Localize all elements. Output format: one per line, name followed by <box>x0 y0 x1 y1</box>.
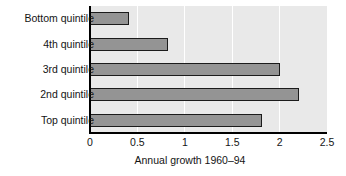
bar-row <box>90 38 327 51</box>
y-tick-label-top-quintile: Top quintile <box>41 114 94 127</box>
y-tick-label-bottom-quintile: Bottom quintile <box>25 12 94 25</box>
bar-row <box>90 63 327 76</box>
y-tick-label-4th-quintile: 4th quintile <box>43 38 94 51</box>
plot-area <box>90 6 327 133</box>
bar-row <box>90 88 327 101</box>
bars-group <box>90 6 327 133</box>
y-tick-label-3rd-quintile: 3rd quintile <box>43 63 94 76</box>
y-tick-label-2nd-quintile: 2nd quintile <box>40 88 94 101</box>
x-tick-label-3: 1.5 <box>225 136 240 149</box>
bar <box>90 38 168 51</box>
bar <box>90 114 262 127</box>
bar-chart: Bottom quintile 4th quintile 3rd quintil… <box>0 0 346 176</box>
x-tick-label-0: 0 <box>87 136 93 149</box>
x-axis-title: Annual growth 1960–94 <box>0 153 346 167</box>
x-tick-label-2: 1 <box>182 136 188 149</box>
x-tick-label-5: 2.5 <box>320 136 335 149</box>
x-tick-label-1: 0.5 <box>130 136 145 149</box>
x-tick-label-4: 2 <box>277 136 283 149</box>
bar <box>90 63 280 76</box>
bar <box>90 12 129 25</box>
x-axis-line <box>89 132 327 134</box>
bar <box>90 88 299 101</box>
bar-row <box>90 114 327 127</box>
bar-row <box>90 12 327 25</box>
